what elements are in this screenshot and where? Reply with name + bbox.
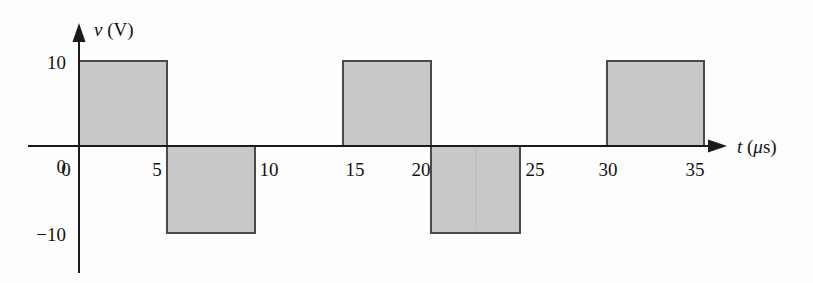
x-tick-label-20: 20 (412, 160, 431, 179)
x-tick-label-35: 35 (686, 160, 705, 179)
y-tick-label-minus-10: −10 (26, 225, 66, 244)
x-tick-label-25: 25 (526, 160, 545, 179)
v-axis-unit: (V) (107, 19, 133, 40)
voltage-waveform-figure: v (V) t (μs) 10 0 −10 0 5 10 15 20 25 30… (0, 0, 813, 283)
v-axis-arrowhead (73, 23, 86, 42)
pulse-0-5-positive (79, 61, 167, 146)
x-tick-label-5: 5 (152, 160, 162, 179)
x-tick-label-15: 15 (346, 160, 365, 179)
pulse-5-10-negative (167, 146, 255, 233)
pulse-30-35-positive (607, 61, 704, 146)
t-axis-caption: t (μs) (737, 137, 777, 156)
plot-canvas (0, 0, 813, 283)
y-tick-label-10: 10 (38, 53, 66, 72)
pulse-15-20-positive (343, 61, 431, 146)
x-tick-label-30: 30 (599, 160, 618, 179)
t-axis-unit-mu: μ (753, 136, 763, 157)
t-axis-arrowhead (708, 140, 727, 153)
x-tick-label-10: 10 (260, 160, 279, 179)
t-axis-unit-close: s) (763, 136, 777, 157)
v-axis-caption: v (V) (94, 20, 134, 39)
x-tick-label-0: 0 (61, 160, 71, 179)
